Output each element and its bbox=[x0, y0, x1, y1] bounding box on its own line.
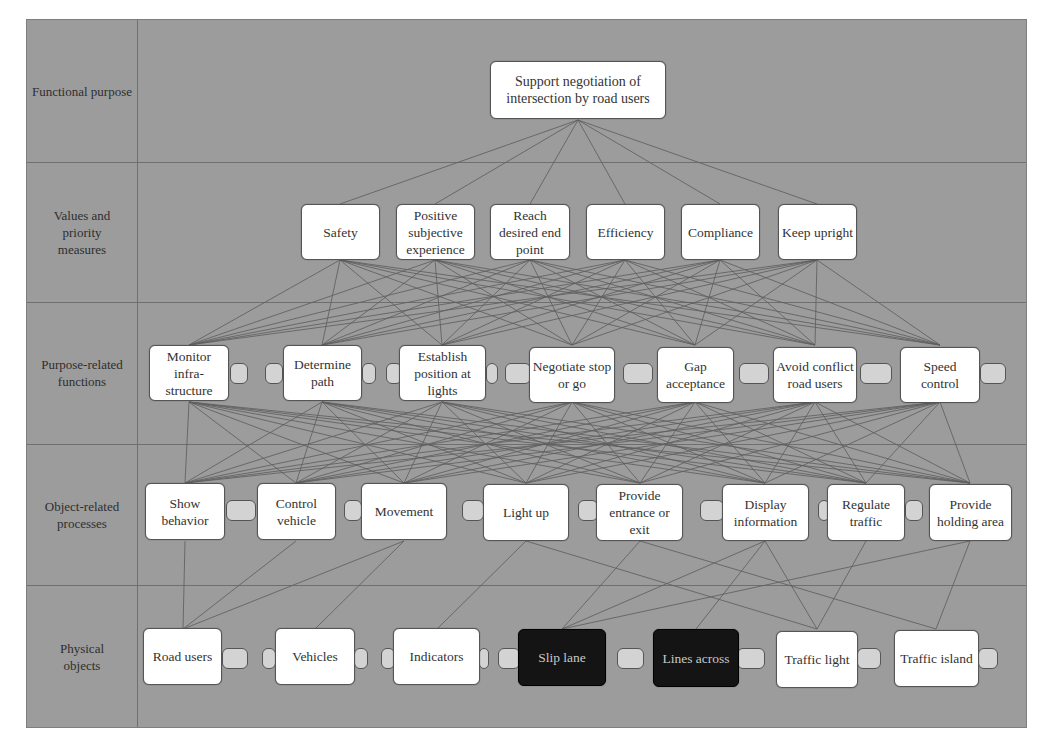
node-value-keep-upright: Keep upright bbox=[778, 204, 857, 260]
connector-tab bbox=[265, 363, 283, 384]
node-function-monitor-infrastructure: Monitor infra-structure bbox=[149, 345, 229, 401]
row-label-processes: Object-related processes bbox=[27, 444, 137, 585]
node-object-indicators: Indicators bbox=[393, 628, 480, 685]
row-label-physical-objects: Physical objects bbox=[27, 585, 137, 729]
connector-tab bbox=[354, 648, 368, 669]
node-function-avoid-conflict: Avoid conflict road users bbox=[773, 347, 857, 403]
connector-tab bbox=[505, 363, 531, 384]
node-object-vehicles: Vehicles bbox=[275, 628, 355, 685]
node-object-traffic-island: Traffic island bbox=[894, 630, 979, 687]
node-process-regulate-traffic: Regulate traffic bbox=[827, 484, 905, 541]
row-label-values: Values and priority measures bbox=[27, 162, 137, 302]
label-column-divider bbox=[137, 20, 138, 727]
node-process-provide-entrance-exit: Provide entrance or exit bbox=[596, 484, 683, 541]
connector-tab bbox=[617, 648, 644, 669]
connector-tab bbox=[905, 500, 923, 521]
row-label-functional-purpose: Functional purpose bbox=[27, 20, 137, 162]
node-object-slip-lane: Slip lane bbox=[518, 629, 606, 686]
connector-tab bbox=[578, 500, 598, 521]
connector-tab bbox=[222, 648, 248, 669]
connector-tab bbox=[486, 363, 498, 384]
node-value-compliance: Compliance bbox=[681, 204, 760, 260]
node-object-road-users: Road users bbox=[143, 628, 222, 685]
node-value-efficiency: Efficiency bbox=[586, 204, 665, 260]
connector-tab bbox=[623, 363, 653, 384]
row-divider bbox=[27, 302, 1026, 303]
connector-tab bbox=[860, 363, 892, 384]
connector-tab bbox=[479, 648, 489, 669]
connector-tab bbox=[980, 363, 1006, 384]
connector-tab bbox=[737, 648, 765, 669]
node-object-lines-across: Lines across bbox=[653, 629, 739, 687]
row-divider bbox=[27, 162, 1026, 163]
connector-tab bbox=[498, 648, 520, 669]
node-value-safety: Safety bbox=[301, 204, 380, 260]
node-process-movement: Movement bbox=[361, 483, 447, 540]
connector-tab bbox=[857, 648, 881, 669]
connector-tab bbox=[226, 500, 256, 521]
node-process-show-behavior: Show behavior bbox=[145, 483, 225, 540]
node-functional-purpose: Support negotiation of intersection by r… bbox=[490, 61, 666, 119]
row-divider bbox=[27, 585, 1026, 586]
node-object-traffic-light: Traffic light bbox=[776, 631, 858, 688]
node-function-speed-control: Speed control bbox=[900, 347, 980, 403]
row-label-functions: Purpose-related functions bbox=[27, 302, 137, 444]
connector-tab bbox=[978, 648, 998, 669]
connector-tab bbox=[362, 363, 376, 384]
node-function-determine-path: Determine path bbox=[283, 345, 362, 401]
node-process-control-vehicle: Control vehicle bbox=[257, 483, 336, 540]
row-divider bbox=[27, 444, 1026, 445]
connector-tab bbox=[344, 500, 362, 521]
connector-tab bbox=[462, 500, 484, 521]
node-process-light-up: Light up bbox=[483, 484, 569, 541]
connector-tab bbox=[700, 500, 724, 521]
node-process-display-information: Display information bbox=[722, 484, 809, 541]
node-process-provide-holding-area: Provide holding area bbox=[929, 484, 1012, 541]
node-function-gap-acceptance: Gap acceptance bbox=[657, 347, 734, 403]
node-value-reach-end-point: Reach desired end point bbox=[490, 204, 570, 260]
connector-tab bbox=[262, 648, 276, 669]
connector-tab bbox=[739, 363, 769, 384]
node-value-positive-experience: Positive subjective experience bbox=[396, 204, 475, 260]
node-function-establish-position: Establish position at lights bbox=[399, 345, 486, 401]
node-function-negotiate-stop-go: Negotiate stop or go bbox=[529, 347, 615, 403]
connector-tab bbox=[230, 363, 248, 384]
